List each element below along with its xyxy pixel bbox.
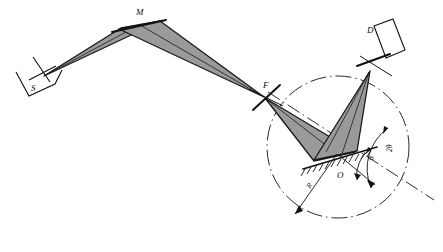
label-sample-origin: O [337,170,344,180]
diagram-canvas: S F O D [0,0,443,252]
canvas-background [0,0,443,252]
label-two-theta: 2θ [385,144,394,152]
label-focus: F [262,80,269,90]
diffractometer-diagram: S F O D [0,0,443,252]
label-monochromator: M [135,7,144,17]
label-source: S [31,83,36,93]
label-detector: D [366,25,374,35]
